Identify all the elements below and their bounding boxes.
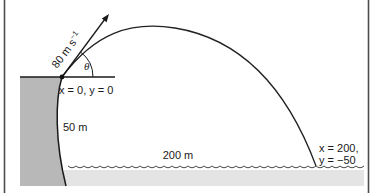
water-surface-waves bbox=[68, 166, 364, 168]
origin-label: x = 0, y = 0 bbox=[59, 84, 113, 96]
impact-label-line2: y = −50 bbox=[319, 154, 356, 166]
range-label: 200 m bbox=[163, 149, 194, 161]
water-fill bbox=[64, 170, 364, 186]
trajectory-path bbox=[62, 26, 316, 166]
projectile-diagram: 80 m s−1 θ x = 0, y = 0 50 m 200 m x = 2… bbox=[0, 0, 376, 193]
angle-label: θ bbox=[84, 60, 90, 72]
velocity-label: 80 m s−1 bbox=[48, 29, 84, 70]
cliff-height-label: 50 m bbox=[63, 121, 87, 133]
launch-point-dot bbox=[60, 75, 65, 80]
impact-label-line1: x = 200, bbox=[319, 142, 358, 154]
diagram-canvas: 80 m s−1 θ x = 0, y = 0 50 m 200 m x = 2… bbox=[0, 0, 376, 193]
